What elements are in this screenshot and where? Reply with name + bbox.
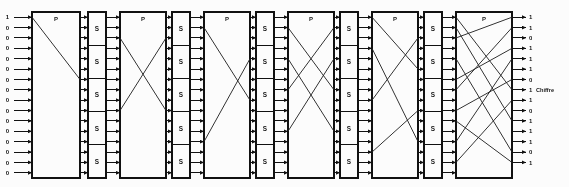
sbox-label: S	[95, 25, 100, 32]
stage-p2-permutation: P	[120, 12, 166, 178]
sbox-label: S	[347, 91, 352, 98]
output-bit-value: 1	[529, 56, 533, 62]
output-bit-value: 0	[529, 77, 533, 83]
sbox-label: S	[263, 158, 268, 165]
sbox-label: S	[347, 125, 352, 132]
permutation-box-label: P	[393, 16, 397, 22]
sbox-label: S	[263, 25, 268, 32]
sbox-label: S	[179, 158, 184, 165]
input-bit-value: 0	[6, 97, 10, 103]
sbox-label: S	[431, 58, 436, 65]
stage-s2-substitution: SSSSS	[172, 12, 190, 178]
output-bit-value: 1	[529, 45, 533, 51]
sbox-label: S	[347, 58, 352, 65]
permutation-box-label: P	[141, 16, 145, 22]
sbox-label: S	[95, 158, 100, 165]
output-bit-value: 1	[529, 14, 533, 20]
input-bit-value: 0	[6, 139, 10, 145]
output-bit-value: 1	[529, 139, 533, 145]
input-bit-value: 0	[6, 160, 10, 166]
output-bit-value: 1	[529, 66, 533, 72]
sbox-label: S	[95, 125, 100, 132]
stage-s5-substitution: SSSSS	[424, 12, 442, 178]
sbox-label: S	[431, 91, 436, 98]
sbox-label: S	[263, 58, 268, 65]
sbox-label: S	[431, 158, 436, 165]
output-bit-value: 1	[529, 160, 533, 166]
input-bit-value: 0	[6, 66, 10, 72]
input-bit-value: 0	[6, 45, 10, 51]
stage-s3-substitution: SSSSS	[256, 12, 274, 178]
input-bit-value: 1	[6, 14, 10, 20]
output-bit-value: 1	[529, 128, 533, 134]
sbox-label: S	[179, 25, 184, 32]
sbox-label: S	[95, 58, 100, 65]
output-bit-value: 1	[529, 97, 533, 103]
input-bit-value: 0	[6, 170, 10, 176]
permutation-box-label: P	[54, 16, 58, 22]
sbox-label: S	[179, 58, 184, 65]
output-bit-value: 0	[529, 35, 533, 41]
stage-p3-permutation: P	[204, 12, 250, 178]
sbox-label: S	[95, 91, 100, 98]
input-bit-value: 0	[6, 149, 10, 155]
sbox-label: S	[263, 125, 268, 132]
output-bit-value: 1	[529, 87, 533, 93]
input-bit-value: 0	[6, 35, 10, 41]
permutation-box-label: P	[225, 16, 229, 22]
sbox-label: S	[347, 25, 352, 32]
permutation-box-label: P	[309, 16, 313, 22]
sbox-label: S	[431, 25, 436, 32]
input-bit-value: 0	[6, 118, 10, 124]
input-bit-value: 0	[6, 56, 10, 62]
output-bit-value: 1	[529, 25, 533, 31]
sp-network-diagram: PSSSSSPSSSSSPSSSSSPSSSSSPSSSSSP100000000…	[0, 0, 569, 187]
stage-s1-substitution: SSSSS	[88, 12, 106, 178]
stage-p1-permutation: P	[32, 12, 80, 178]
sbox-label: S	[179, 125, 184, 132]
input-bit-value: 0	[6, 25, 10, 31]
output-bit-value: 0	[529, 149, 533, 155]
sbox-label: S	[347, 158, 352, 165]
stage-s4-substitution: SSSSS	[340, 12, 358, 178]
chiffre-label: Chiffre	[536, 87, 554, 93]
sbox-label: S	[179, 91, 184, 98]
output-bit-value: 1	[529, 118, 533, 124]
input-bit-value: 0	[6, 77, 10, 83]
figure-canvas: PSSSSSPSSSSSPSSSSSPSSSSSPSSSSSP100000000…	[0, 0, 569, 187]
permutation-box-label: P	[482, 16, 486, 22]
input-bit-value: 0	[6, 128, 10, 134]
output-bit-value: 0	[529, 108, 533, 114]
sbox-label: S	[431, 125, 436, 132]
sbox-label: S	[263, 91, 268, 98]
input-bit-value: 0	[6, 108, 10, 114]
input-bit-value: 0	[6, 87, 10, 93]
